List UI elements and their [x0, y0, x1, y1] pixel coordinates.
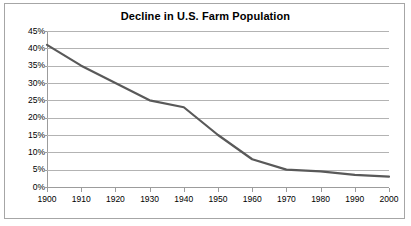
y-tick-label: 35% [11, 61, 45, 70]
x-tick-mark [184, 188, 185, 192]
y-tick-label: 15% [11, 131, 45, 140]
x-tick-mark [355, 188, 356, 192]
chart-title: Decline in U.S. Farm Population [5, 10, 406, 22]
x-tick-mark [115, 188, 116, 192]
y-tick-label: 25% [11, 96, 45, 105]
y-tick-label: 10% [11, 148, 45, 157]
x-tick-mark [150, 188, 151, 192]
x-tick-mark [389, 188, 390, 192]
x-tick-mark [252, 188, 253, 192]
y-tick-mark [44, 118, 47, 119]
x-tick-mark [218, 188, 219, 192]
data-line-us-farm-population [47, 45, 389, 177]
y-tick-label: 20% [11, 113, 45, 122]
y-tick-mark [44, 83, 47, 84]
y-tick-label: 30% [11, 79, 45, 88]
x-tick-mark [47, 188, 48, 192]
y-tick-label: 5% [11, 165, 45, 174]
x-tick-mark [286, 188, 287, 192]
data-series-layer [47, 31, 389, 188]
x-tick-label: 2000 [369, 195, 409, 204]
y-tick-mark [44, 66, 47, 67]
y-tick-mark [44, 48, 47, 49]
y-axis-labels: 45%40%35%30%25%20%15%10%5%0% [7, 31, 45, 187]
chart-container: Decline in U.S. Farm Population 45%40%35… [4, 3, 405, 219]
y-tick-mark [44, 100, 47, 101]
x-tick-mark [321, 188, 322, 192]
y-tick-mark [44, 31, 47, 32]
x-tick-mark [81, 188, 82, 192]
y-tick-label: 40% [11, 44, 45, 53]
y-tick-mark [44, 170, 47, 171]
y-tick-mark [44, 135, 47, 136]
y-tick-label: 45% [11, 27, 45, 36]
y-tick-label: 0% [11, 183, 45, 192]
y-tick-mark [44, 152, 47, 153]
